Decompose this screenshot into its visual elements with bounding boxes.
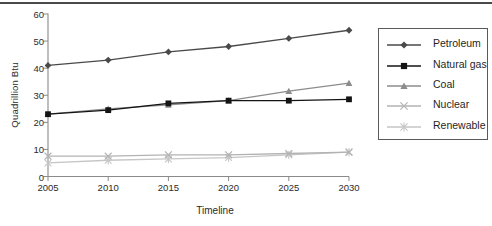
y-tick-label: 10 [18, 144, 44, 155]
legend-label: Coal [433, 78, 455, 90]
y-tick-label: 40 [18, 63, 44, 74]
x-tick-label: 2010 [98, 182, 119, 193]
natural-gas-square-marker-icon [386, 58, 422, 70]
x-axis-title: Timeline [196, 205, 233, 216]
legend-item-coal: Coal [386, 75, 485, 93]
legend-item-natural-gas: Natural gas [386, 55, 485, 73]
x-tick-label: 2020 [218, 182, 239, 193]
x-tick-label: 2025 [278, 182, 299, 193]
petroleum-diamond-marker-icon [386, 37, 422, 49]
legend-label: Nuclear [433, 98, 469, 110]
y-tick-label: 0 [18, 171, 44, 182]
nuclear-x-marker-icon [386, 98, 422, 110]
chart-legend: Petroleum Natural gas Coal Nuclear Renew… [378, 28, 488, 140]
y-axis-title: Quadrillion Btu [9, 62, 20, 127]
y-tick-label: 50 [18, 36, 44, 47]
legend-item-petroleum: Petroleum [386, 34, 485, 52]
x-tick-label: 2030 [338, 182, 359, 193]
y-tick-label: 60 [18, 9, 44, 20]
legend-label: Renewable [433, 119, 486, 131]
renewable-asterisk-marker-icon [386, 119, 422, 131]
legend-item-nuclear: Nuclear [386, 95, 485, 113]
y-tick-label: 20 [18, 117, 44, 128]
y-tick-label: 30 [18, 90, 44, 101]
energy-consumption-line-chart-figure: 2005201020152020202520300102030405060 Qu… [0, 0, 492, 226]
x-tick-label: 2005 [37, 182, 58, 193]
legend-label: Petroleum [433, 37, 481, 49]
legend-item-renewable: Renewable [386, 116, 485, 134]
coal-triangle-marker-icon [386, 78, 422, 90]
x-tick-label: 2015 [158, 182, 179, 193]
legend-label: Natural gas [433, 58, 487, 70]
